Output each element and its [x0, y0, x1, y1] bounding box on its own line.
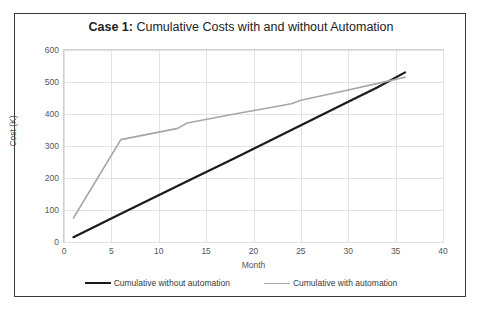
gridline-horizontal — [64, 242, 443, 243]
legend-label: Cumulative with automation — [293, 278, 397, 288]
y-tick-label: 600 — [19, 45, 59, 55]
legend-line-swatch — [264, 283, 290, 284]
y-tick-label: 100 — [19, 205, 59, 215]
chart-title-case-label: Case 1: — [88, 20, 132, 34]
legend-entry-1[interactable]: Cumulative with automation — [264, 278, 397, 288]
series-lines — [64, 50, 443, 242]
x-tick-label: 15 — [191, 246, 221, 256]
legend-label: Cumulative without automation — [114, 278, 230, 288]
gridline-vertical — [443, 50, 444, 242]
x-tick-label: 25 — [286, 246, 316, 256]
x-tick-label: 35 — [381, 246, 411, 256]
series-line-0 — [73, 72, 405, 237]
y-axis-title: Cost (K) — [8, 115, 18, 146]
x-tick-label: 10 — [144, 246, 174, 256]
x-tick-label: 30 — [333, 246, 363, 256]
x-axis-title: Month — [63, 260, 444, 270]
chart-legend: Cumulative without automationCumulative … — [15, 278, 467, 288]
y-tick-label: 300 — [19, 141, 59, 151]
y-tick-label: 400 — [19, 109, 59, 119]
chart-frame: Case 1: Cumulative Costs with and withou… — [14, 13, 466, 297]
y-tick-label: 500 — [19, 77, 59, 87]
y-axis-tick-labels: 0100200300400500600 — [15, 49, 59, 243]
scan-artifact — [0, 0, 482, 10]
x-axis-tick-labels: 0510152025303540 — [63, 246, 444, 260]
chart-title-rest: Cumulative Costs with and without Automa… — [133, 20, 394, 34]
legend-line-swatch — [85, 282, 111, 284]
plot-area — [63, 49, 444, 243]
legend-entry-0[interactable]: Cumulative without automation — [85, 278, 230, 288]
x-tick-label: 5 — [96, 246, 126, 256]
y-tick-label: 200 — [19, 173, 59, 183]
x-tick-label: 0 — [49, 246, 79, 256]
chart-title: Case 1: Cumulative Costs with and withou… — [15, 20, 467, 34]
x-tick-label: 20 — [239, 246, 269, 256]
x-tick-label: 40 — [428, 246, 458, 256]
